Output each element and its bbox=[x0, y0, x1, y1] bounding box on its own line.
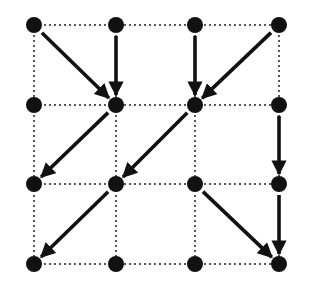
graph-node bbox=[271, 176, 287, 192]
directed-edge-arrow bbox=[203, 192, 272, 258]
graph-node bbox=[26, 17, 42, 33]
graph-node bbox=[26, 97, 42, 113]
graph-node bbox=[187, 256, 203, 272]
directed-edge-arrow bbox=[202, 33, 271, 99]
directed-edges bbox=[41, 33, 279, 258]
graph-node bbox=[108, 256, 124, 272]
graph-node bbox=[26, 256, 42, 272]
graph-node bbox=[108, 17, 124, 33]
graph-node bbox=[108, 176, 124, 192]
directed-edge-arrow bbox=[41, 192, 108, 257]
graph-node bbox=[187, 176, 203, 192]
graph-node bbox=[108, 97, 124, 113]
graph-node bbox=[271, 97, 287, 113]
grid-graph-diagram bbox=[0, 0, 311, 288]
graph-node bbox=[187, 17, 203, 33]
graph-node bbox=[271, 256, 287, 272]
graph-node bbox=[187, 97, 203, 113]
directed-edge-arrow bbox=[41, 113, 108, 177]
directed-edge-arrow bbox=[42, 33, 109, 98]
graph-node bbox=[271, 17, 287, 33]
directed-edge-arrow bbox=[123, 113, 187, 177]
graph-node bbox=[26, 176, 42, 192]
